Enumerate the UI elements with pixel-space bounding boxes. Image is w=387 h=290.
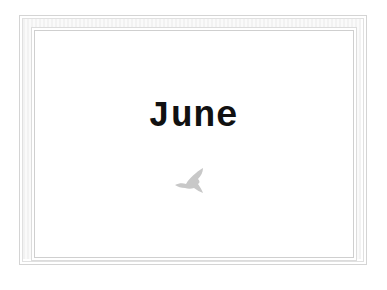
card-title: June [0, 96, 387, 137]
bird-icon [173, 166, 209, 196]
frame-inner-panel [34, 30, 354, 258]
